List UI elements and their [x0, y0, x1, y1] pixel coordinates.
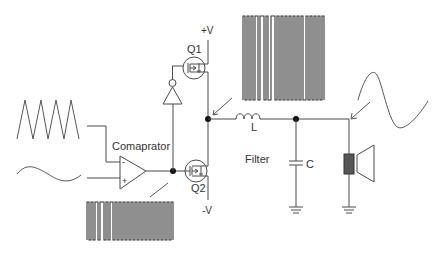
- q2-mosfet: [183, 160, 208, 182]
- q1-mosfet: [183, 57, 208, 79]
- inductor-label: L: [251, 121, 257, 133]
- capacitor-label: C: [306, 158, 314, 170]
- capacitor: [289, 119, 303, 207]
- pwm-signal-comparator: [87, 202, 173, 240]
- comparator-plus-label: +: [122, 176, 127, 186]
- comparator-minus-label: -: [122, 157, 125, 167]
- comparator-label: Comaprator: [112, 140, 170, 152]
- inductor: [236, 114, 260, 119]
- neg-supply-label: -V: [202, 205, 212, 216]
- pwm-comparator-pointer: [150, 183, 168, 197]
- output-sine-signal: [358, 72, 428, 127]
- comparator-input-wires: [87, 126, 120, 178]
- speaker-icon: [344, 145, 374, 207]
- class-d-amplifier-diagram: - + Comaprator Q1 +V: [0, 0, 444, 253]
- filter-output-wire: [260, 119, 349, 155]
- pwm-output-pointer-arrow: [214, 98, 232, 114]
- q2-label: Q2: [191, 182, 206, 194]
- audio-sine-signal: [17, 167, 81, 181]
- ground-icon: [289, 207, 303, 213]
- inverter: [163, 66, 186, 104]
- ground-icon: [342, 207, 356, 213]
- triangle-wave-signal: [17, 100, 79, 139]
- pos-supply-label: +V: [201, 25, 214, 36]
- pwm-signal-output: [242, 15, 326, 100]
- filter-label: Filter: [245, 153, 270, 165]
- q1-label: Q1: [187, 43, 202, 55]
- output-pointer-arrow: [352, 102, 370, 118]
- comparator: - +: [120, 156, 146, 189]
